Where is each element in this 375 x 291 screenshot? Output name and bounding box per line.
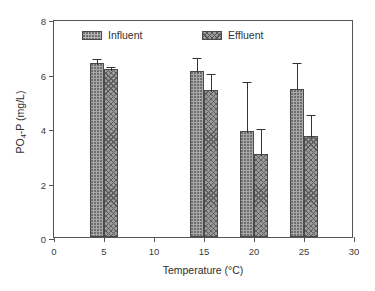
legend-entry-influent[interactable]: Influent <box>82 29 142 41</box>
bar-influent-15 <box>190 71 204 237</box>
error-bar-effluent-25 <box>311 115 312 138</box>
error-bar-cap <box>107 67 116 68</box>
y-axis-tick-label: 6 <box>41 70 46 81</box>
error-bar-influent-15 <box>197 58 198 73</box>
error-bar-cap <box>257 129 266 130</box>
error-bar-cap <box>207 74 216 75</box>
x-axis-tick-label: 5 <box>101 246 106 257</box>
bar-effluent-15 <box>204 90 218 237</box>
x-axis-tick-label: 20 <box>249 246 260 257</box>
y-axis-label: PO4-P (mg/L) <box>14 42 28 202</box>
error-bar-cap <box>93 59 102 60</box>
x-axis-tick <box>154 237 155 242</box>
y-axis-tick-label: 0 <box>41 234 46 245</box>
bar-effluent-20 <box>254 154 268 237</box>
bar-effluent-5 <box>104 69 118 237</box>
y-axis-tick <box>49 130 54 131</box>
legend-entry-effluent[interactable]: Effluent <box>202 29 263 41</box>
error-bar-influent-25 <box>297 63 298 90</box>
x-axis-tick <box>104 237 105 242</box>
y-axis-tick-label: 2 <box>41 179 46 190</box>
legend-swatch-influent <box>82 31 102 40</box>
y-axis-label-suffix: -P (mg/L) <box>14 91 26 135</box>
error-bar-effluent-15 <box>211 74 212 92</box>
x-axis-tick <box>204 237 205 242</box>
error-bar-cap <box>193 58 202 59</box>
x-axis-tick-label: 0 <box>51 246 56 257</box>
y-axis-tick <box>49 21 54 22</box>
legend-label: Effluent <box>228 29 263 41</box>
legend-label: Influent <box>108 29 142 41</box>
error-bar-effluent-20 <box>261 129 262 156</box>
bar-influent-5 <box>90 63 104 237</box>
chart-figure: 02468051015202530 InfluentEffluent PO4-P… <box>0 0 375 291</box>
bar-influent-25 <box>290 89 304 238</box>
y-axis-label-subscript: 4 <box>19 134 28 138</box>
y-axis-tick <box>49 76 54 77</box>
x-axis-tick-label: 25 <box>299 246 310 257</box>
plot-frame: 02468051015202530 InfluentEffluent <box>53 20 353 238</box>
x-axis-tick <box>354 237 355 242</box>
x-axis-label: Temperature (°C) <box>53 264 353 276</box>
x-axis-tick-label: 30 <box>349 246 360 257</box>
y-axis-tick-label: 4 <box>41 125 46 136</box>
x-axis-tick <box>304 237 305 242</box>
bar-influent-20 <box>240 131 254 237</box>
error-bar-influent-20 <box>247 82 248 132</box>
y-axis-tick <box>49 185 54 186</box>
x-axis-tick <box>54 237 55 242</box>
y-axis-tick-label: 8 <box>41 16 46 27</box>
bar-effluent-25 <box>304 136 318 237</box>
legend-swatch-effluent <box>202 31 222 40</box>
y-axis-label-prefix: PO <box>14 138 26 153</box>
x-axis-tick <box>254 237 255 242</box>
x-axis-tick-label: 10 <box>149 246 160 257</box>
error-bar-cap <box>293 63 302 64</box>
x-axis-tick-label: 15 <box>199 246 210 257</box>
error-bar-cap <box>243 82 252 83</box>
plot-area: 02468051015202530 <box>54 21 352 237</box>
error-bar-cap <box>307 115 316 116</box>
